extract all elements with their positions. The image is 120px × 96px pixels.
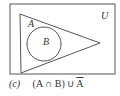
universe-label: U xyxy=(101,10,109,21)
caption-part-label: (c) xyxy=(9,78,20,89)
caption-complement: A xyxy=(76,78,83,89)
caption-expression: (A ∩ B) ∪ xyxy=(33,78,77,89)
universe-rectangle xyxy=(10,4,115,74)
set-a-label: A xyxy=(27,18,35,29)
figure-caption: (c) (A ∩ B) ∪ A xyxy=(9,78,84,89)
set-b-label: B xyxy=(43,36,49,47)
